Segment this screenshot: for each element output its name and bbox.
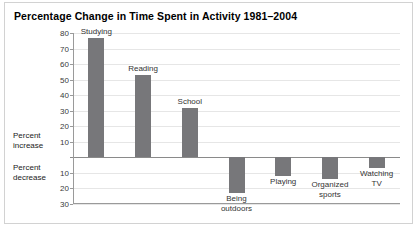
bar: [322, 157, 338, 179]
y-tick-label: 30: [60, 200, 69, 209]
y-tick-label: 40: [60, 91, 69, 100]
chart-card: Percentage Change in Time Spent in Activ…: [0, 0, 417, 236]
y-tick-label: 20: [60, 122, 69, 131]
axis-label-percent-decrease: Percent decrease: [13, 163, 46, 182]
gridline: [73, 126, 400, 127]
gridline: [73, 142, 400, 143]
bar-category-label: Watching TV: [347, 169, 407, 188]
y-tick-label: 10: [60, 168, 69, 177]
bar: [369, 157, 385, 168]
y-tick-mark: [70, 204, 73, 205]
bar: [275, 157, 291, 176]
gridline: [73, 80, 400, 81]
gridline: [73, 49, 400, 50]
y-axis-line: [73, 33, 74, 204]
x-axis-line: [73, 203, 400, 204]
bar-category-label: School: [160, 97, 220, 107]
y-tick-label: 80: [60, 29, 69, 38]
gridline: [73, 111, 400, 112]
chart-title: Percentage Change in Time Spent in Activ…: [14, 10, 297, 22]
bar: [229, 157, 245, 193]
bar-category-label: Reading: [113, 64, 173, 74]
gridline: [73, 95, 400, 96]
y-tick-label: 70: [60, 44, 69, 53]
y-tick-label: 50: [60, 75, 69, 84]
y-tick-label: 60: [60, 60, 69, 69]
y-tick-label: 30: [60, 106, 69, 115]
y-tick-label: 10: [60, 137, 69, 146]
axis-label-percent-increase: Percent increase: [13, 131, 43, 150]
plot-area: StudyingReadingSchoolBeing outdoorsPlayi…: [73, 33, 400, 204]
y-tick-label: 20: [60, 184, 69, 193]
bar-category-label: Studying: [66, 27, 126, 37]
bar: [88, 38, 104, 158]
bar: [135, 75, 151, 157]
bar: [182, 108, 198, 158]
